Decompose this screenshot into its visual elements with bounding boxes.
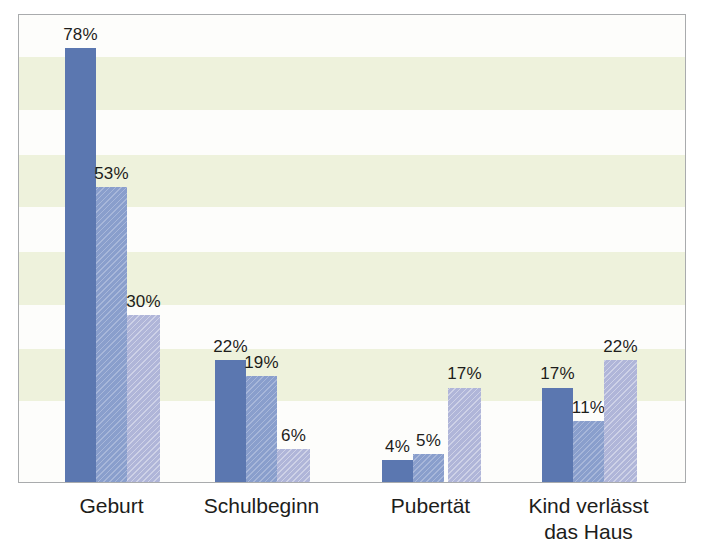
bar [604,360,637,482]
bar-value-label: 22% [204,338,257,355]
bar [96,187,127,482]
bar [382,460,413,482]
bars-layer: 78%53%30%22%19%6%4%5%17%17%11%22% [19,15,685,482]
bar [277,449,310,482]
bar [573,421,604,482]
category-axis-labels: GeburtSchulbeginnPubertätKind verlässt d… [18,487,686,557]
bar [65,48,96,482]
bar-value-label: 53% [85,165,138,182]
bar-value-label: 30% [116,293,171,310]
bar [413,454,444,482]
category-label: Schulbeginn [172,493,352,519]
chart-figure: 78%53%30%22%19%6%4%5%17%17%11%22% Geburt… [0,0,706,559]
bar-value-label: 6% [266,427,321,444]
bar-value-label: 17% [437,365,492,382]
bar-value-label: 22% [593,338,648,355]
bar-value-label: 78% [54,26,107,43]
bar-value-label: 17% [531,365,584,382]
bar [448,388,481,483]
plot-area: 78%53%30%22%19%6%4%5%17%17%11%22% [18,14,686,483]
category-label: Pubertät [341,493,521,519]
bar [127,315,160,482]
bar [215,360,246,482]
category-label: Kind verlässt das Haus [499,493,679,546]
bar-value-label: 19% [235,354,288,371]
